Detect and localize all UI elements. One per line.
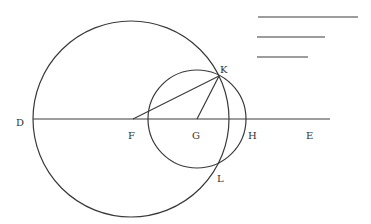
label-E: E bbox=[306, 130, 313, 141]
label-H: H bbox=[248, 130, 257, 141]
line-FK bbox=[133, 76, 219, 119]
label-D: D bbox=[16, 117, 24, 128]
line-GK bbox=[197, 76, 219, 119]
geometry-diagram: D F G H E K L bbox=[0, 0, 371, 224]
label-F: F bbox=[128, 130, 135, 141]
label-L: L bbox=[217, 173, 224, 184]
label-K: K bbox=[220, 64, 228, 75]
label-G: G bbox=[192, 130, 200, 141]
